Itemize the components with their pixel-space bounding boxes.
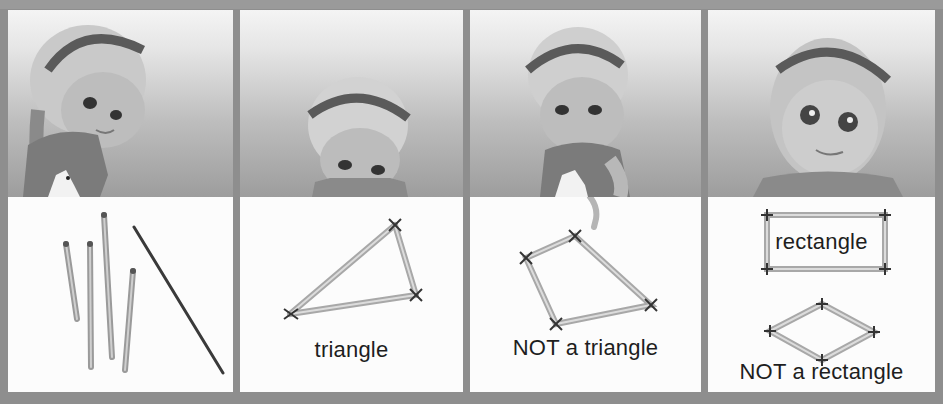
girl-illustration	[240, 10, 463, 197]
caption-not-triangle: NOT a triangle	[470, 335, 701, 361]
board: NOT a triangle	[470, 197, 701, 392]
board	[8, 197, 233, 392]
panel-not-triangle: NOT a triangle	[470, 10, 701, 392]
girl-peeking-icon	[240, 10, 463, 197]
girl-illustration	[8, 10, 233, 197]
girl-illustration	[708, 10, 935, 197]
girl-looking-down-icon	[8, 10, 233, 197]
girl-pointing-icon	[470, 10, 701, 197]
panel-loose-sticks	[8, 10, 233, 392]
loose-sticks-icon	[8, 197, 233, 392]
girl-illustration	[470, 10, 701, 197]
caption-triangle: triangle	[240, 337, 463, 363]
girl-smiling-icon	[708, 10, 935, 197]
board: rectangle NOT a rectangle	[708, 197, 935, 392]
board: triangle	[240, 197, 463, 392]
panel-triangle: triangle	[240, 10, 463, 392]
panel-rectangle: rectangle NOT a rectangle	[708, 10, 935, 392]
caption-not-rectangle: NOT a rectangle	[708, 359, 935, 385]
quadrilateral-sticks-icon	[470, 197, 701, 392]
caption-rectangle: rectangle	[708, 229, 935, 255]
top-cropped-header	[0, 0, 943, 9]
